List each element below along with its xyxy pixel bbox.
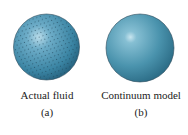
- smooth-sphere-icon: [94, 0, 188, 90]
- figure-continuum-model: Continuum model (b): [94, 0, 188, 135]
- caption-actual-fluid: Actual fluid: [0, 89, 94, 101]
- caption-continuum-model: Continuum model: [94, 89, 188, 101]
- sublabel-a: (a): [0, 106, 94, 118]
- figure-actual-fluid: Actual fluid (a): [0, 0, 94, 135]
- sublabel-b: (b): [94, 106, 188, 118]
- dotted-sphere-icon: [0, 0, 94, 90]
